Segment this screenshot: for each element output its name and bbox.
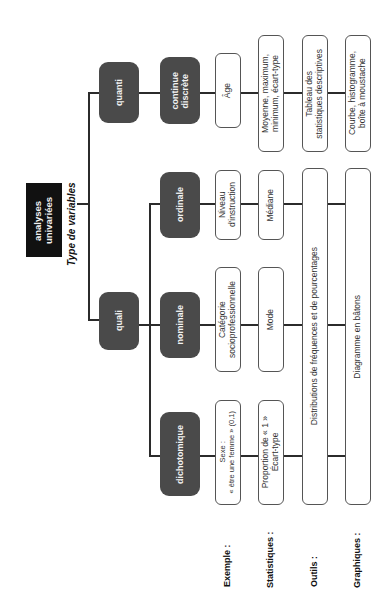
node-dichotomique: dichotomique	[160, 412, 200, 496]
node-quanti-label: quanti	[114, 79, 124, 106]
node-dichotomique-label: dichotomique	[175, 425, 185, 484]
example-sexe-text: Sexe : « être une femme » (0,1)	[219, 411, 236, 494]
node-quanti: quanti	[99, 62, 139, 123]
example-sexe: Sexe : « être une femme » (0,1)	[215, 400, 241, 505]
title-box: analyses univariées	[26, 183, 62, 257]
stat-moyenne: Moyenne, maximum, minimum, écart-type	[258, 35, 284, 152]
example-categorie-text: Catégorie socioprofessionnelle	[218, 281, 238, 358]
tool-tableau-text: Tableau des statistiques descriptives	[305, 49, 325, 139]
node-quali: quali	[99, 292, 139, 350]
tool-distributions-text: Distributions de fréquences et de pource…	[310, 247, 320, 425]
tool-tableau: Tableau des statistiques descriptives	[302, 35, 328, 152]
stat-mode: Mode	[258, 267, 284, 372]
node-quali-label: quali	[114, 310, 124, 331]
stat-mediane-text: Médiane	[266, 189, 276, 222]
stat-proportion: Proportion de « 1 » Écart-type	[258, 400, 284, 505]
stat-mediane: Médiane	[258, 170, 284, 240]
row-label-graphiques: Graphiques :	[352, 530, 362, 588]
graphic-courbe-text: Courbe, histogramme, boîte à moustache	[348, 51, 368, 135]
connector-branch-ordinale	[149, 203, 160, 205]
graphic-courbe: Courbe, histogramme, boîte à moustache	[345, 35, 371, 152]
example-categorie: Catégorie socioprofessionnelle	[215, 267, 241, 372]
connector-trunk-quanti	[88, 92, 99, 94]
graphic-diagramme-text: Diagramme en bâtons	[353, 295, 363, 379]
quali-branch-vertical	[149, 203, 151, 457]
graphic-diagramme: Diagramme en bâtons	[345, 168, 371, 505]
stat-proportion-text: Proportion de « 1 » Écart-type	[261, 416, 281, 488]
example-niveau-text: Niveau d'instruction	[218, 182, 238, 227]
node-nominale-label: nominale	[175, 305, 185, 345]
row-label-exemple: Exemple :	[222, 535, 232, 587]
node-continue-discrete: continue discrète	[160, 57, 200, 124]
example-niveau-instruction: Niveau d'instruction	[215, 170, 241, 240]
trunk-vertical	[88, 92, 90, 321]
node-ordinale-label: ordinale	[175, 187, 185, 222]
connector-quanti-continue	[139, 92, 160, 94]
example-age-text: Âge	[223, 83, 233, 98]
subtitle-type-de-variables: Type de variables	[66, 178, 78, 266]
example-age: Âge	[215, 53, 241, 128]
connector-branch-dichotomique	[149, 455, 160, 457]
row-label-outils: Outils :	[309, 555, 319, 587]
connector-trunk-quali	[88, 319, 99, 321]
node-ordinale: ordinale	[160, 172, 200, 238]
node-nominale: nominale	[160, 292, 200, 358]
node-continue-label: continue discrète	[170, 72, 191, 110]
stat-mode-text: Mode	[266, 309, 276, 330]
tool-distributions: Distributions de fréquences et de pource…	[302, 168, 328, 505]
title-text: analyses univariées	[33, 197, 55, 244]
row-label-statistiques: Statistiques :	[265, 528, 275, 588]
stat-moyenne-text: Moyenne, maximum, minimum, écart-type	[261, 54, 281, 133]
